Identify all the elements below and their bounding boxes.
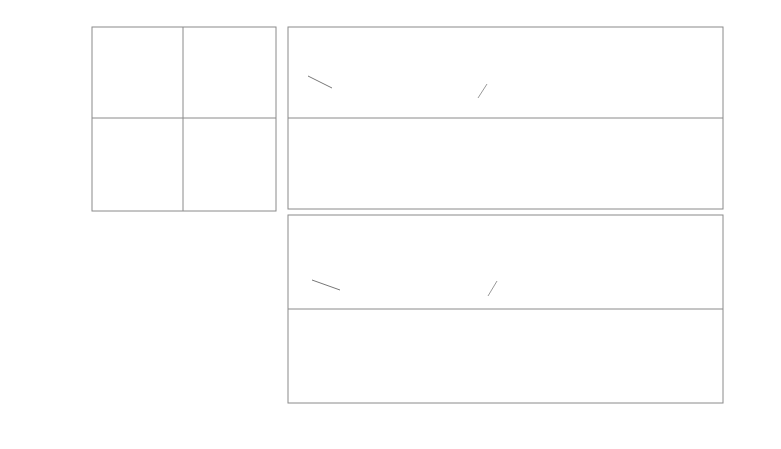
phi-leader-line — [312, 280, 340, 290]
figure-canvas — [0, 0, 781, 449]
theta-leader-line-top — [478, 84, 487, 98]
phi-dot-time-panel — [288, 27, 723, 209]
phi-time-panel — [288, 215, 723, 403]
phi-dot-leader-line — [308, 76, 332, 88]
theta-leader-line-bottom — [488, 281, 497, 296]
phase-portrait-panel — [92, 27, 276, 211]
phase-portrait-frame — [92, 27, 276, 211]
